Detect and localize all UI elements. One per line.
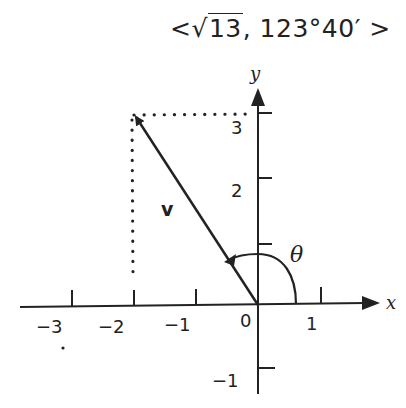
stray-dot xyxy=(61,346,64,349)
x-tick-label-neg2: −2 xyxy=(98,316,125,337)
y-axis xyxy=(251,88,275,394)
angle-arc xyxy=(229,254,296,304)
y-axis-label: y xyxy=(249,63,261,84)
vector-label: v xyxy=(161,198,174,220)
x-axis-label: x xyxy=(386,292,396,313)
x-axis xyxy=(20,287,380,310)
x-tick-label-neg1: −1 xyxy=(164,314,191,335)
x-axis-arrow-icon xyxy=(362,296,380,310)
vector-v xyxy=(136,117,258,305)
dotted-line-horizontal xyxy=(134,114,252,115)
coordinate-plane: x −3 −2 −1 0 1 y 3 2 −1 v θ xyxy=(0,0,406,408)
dotted-line-vertical xyxy=(132,120,133,276)
y-tick-label-neg1: −1 xyxy=(212,370,239,391)
theta-label: θ xyxy=(290,242,303,267)
x-tick-label-1: 1 xyxy=(306,313,317,334)
y-tick-label-2: 2 xyxy=(231,180,242,201)
y-tick-label-3: 3 xyxy=(231,117,242,138)
origin-label: 0 xyxy=(240,310,251,331)
x-tick-label-neg3: −3 xyxy=(36,316,63,337)
y-axis-arrow-icon xyxy=(251,88,265,106)
